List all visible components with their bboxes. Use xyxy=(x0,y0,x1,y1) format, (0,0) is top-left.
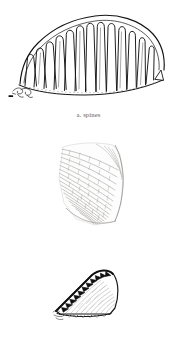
spines-detached-sketch-fragment xyxy=(13,88,33,98)
spines-fragment-bar xyxy=(9,95,14,97)
spines-drawing xyxy=(0,8,177,108)
figure-c-artwork xyxy=(0,264,177,326)
figure-c-spinous-ray: c. spinous ray xyxy=(0,264,177,326)
figure-a-caption: a. spines xyxy=(0,110,177,119)
soft-rays-drawing xyxy=(0,138,177,230)
figure-a-artwork xyxy=(0,8,177,108)
figure-a-spines: a. spines xyxy=(0,8,177,108)
page-bottom-bleed xyxy=(0,351,177,359)
spine-group xyxy=(25,22,154,91)
spinous-ray-drawing xyxy=(0,264,177,326)
spines-base-arc xyxy=(19,80,163,95)
spine-11 xyxy=(127,31,136,89)
spine-10 xyxy=(117,27,127,91)
spine-9 xyxy=(107,23,117,91)
spine-7 xyxy=(86,23,97,91)
spine-12 xyxy=(137,38,146,87)
figure-b-soft-rays: b. soft rays xyxy=(0,138,177,230)
spinous-ray-body xyxy=(56,271,118,315)
figure-plate: a. spines xyxy=(0,0,177,359)
spine-terminal-tip xyxy=(155,70,164,80)
page-bottom-bleed-text xyxy=(0,351,177,355)
figure-b-artwork xyxy=(0,138,177,230)
spine-8 xyxy=(96,22,106,91)
spine-5 xyxy=(65,30,77,90)
spine-6 xyxy=(75,26,86,91)
spine-13 xyxy=(146,46,154,84)
spines-stippled-baseline xyxy=(30,82,155,93)
